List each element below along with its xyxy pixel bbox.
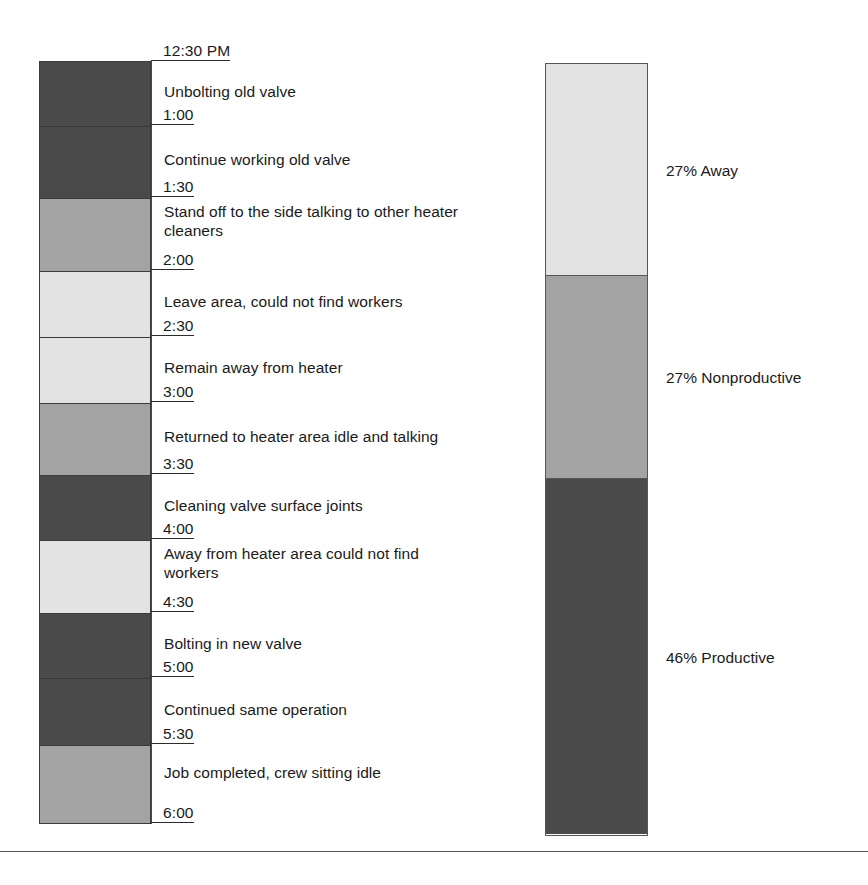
- timeline-row: Stand off to the side talking to other h…: [39, 198, 459, 271]
- timeline-description: Continue working old valve: [164, 150, 459, 169]
- timeline-row: Continue working old valve 1:30: [39, 126, 459, 198]
- timeline-description: Job completed, crew sitting idle: [164, 763, 459, 782]
- timeline-swatch-away: [39, 271, 151, 337]
- timeline-time-end: 5:00: [151, 657, 194, 677]
- timeline-time-end: 1:00: [151, 105, 194, 125]
- timeline-swatch-productive: [39, 61, 151, 126]
- work-sampling-figure: 12:30 PM Unbolting old valve 1:00 Contin…: [0, 0, 868, 885]
- timeline-row-body: Bolting in new valve 5:00: [151, 613, 459, 678]
- timeline-swatch-productive: [39, 126, 151, 198]
- timeline-time-end: 6:00: [151, 803, 194, 823]
- timeline-time-end: 4:30: [151, 592, 194, 612]
- timeline-description: Remain away from heater: [164, 358, 459, 377]
- timeline-time-end: 4:00: [151, 519, 194, 539]
- timeline-description: Unbolting old valve: [164, 82, 459, 101]
- timeline-row-body: Cleaning valve surface joints 4:00: [151, 475, 459, 540]
- timeline-row-body: 12:30 PM Unbolting old valve 1:00: [151, 61, 459, 126]
- timeline-row-body: Remain away from heater 3:00: [151, 337, 459, 403]
- bar-segment-label-nonproductive: 27% Nonproductive: [666, 368, 801, 387]
- timeline-row-body: Continue working old valve 1:30: [151, 126, 459, 198]
- timeline-time-start: 12:30 PM: [151, 41, 230, 61]
- timeline-row: Job completed, crew sitting idle 6:00: [39, 745, 459, 824]
- timeline-row-body: Stand off to the side talking to other h…: [151, 198, 459, 271]
- timeline-row: Returned to heater area idle and talking…: [39, 403, 459, 475]
- timeline-swatch-away: [39, 540, 151, 613]
- bar-segment-productive: 46% Productive: [546, 478, 647, 834]
- timeline-row: Continued same operation 5:30: [39, 678, 459, 745]
- timeline-row-body: Leave area, could not find workers 2:30: [151, 271, 459, 337]
- timeline-time-end: 3:30: [151, 454, 194, 474]
- timeline-time-end: 2:30: [151, 316, 194, 336]
- timeline-description: Continued same operation: [164, 700, 459, 719]
- bar-segment-nonproductive: 27% Nonproductive: [546, 275, 647, 478]
- timeline-description: Stand off to the side talking to other h…: [164, 202, 459, 240]
- timeline-swatch-away: [39, 337, 151, 403]
- timeline-time-end: 2:00: [151, 250, 194, 270]
- timeline-row-body: Returned to heater area idle and talking…: [151, 403, 459, 475]
- summary-stacked-bar: 27% Away 27% Nonproductive 46% Productiv…: [545, 63, 648, 836]
- timeline-swatch-nonproductive: [39, 403, 151, 475]
- timeline-row: Away from heater area could not find wor…: [39, 540, 459, 613]
- timeline-row-body: Continued same operation 5:30: [151, 678, 459, 745]
- timeline-row-body: Away from heater area could not find wor…: [151, 540, 459, 613]
- timeline-description: Bolting in new valve: [164, 634, 459, 653]
- bar-segment-label-away: 27% Away: [666, 160, 738, 179]
- activity-timeline: 12:30 PM Unbolting old valve 1:00 Contin…: [39, 61, 459, 824]
- bottom-divider: [0, 851, 868, 852]
- timeline-swatch-productive: [39, 613, 151, 678]
- timeline-description: Leave area, could not find workers: [164, 292, 459, 311]
- timeline-row: Leave area, could not find workers 2:30: [39, 271, 459, 337]
- timeline-time-end: 5:30: [151, 724, 194, 744]
- timeline-time-end: 3:00: [151, 382, 194, 402]
- timeline-swatch-nonproductive: [39, 198, 151, 271]
- timeline-row: Cleaning valve surface joints 4:00: [39, 475, 459, 540]
- bar-segment-away: 27% Away: [546, 64, 647, 275]
- timeline-description: Cleaning valve surface joints: [164, 496, 459, 515]
- bar-segment-label-productive: 46% Productive: [666, 647, 775, 666]
- timeline-swatch-productive: [39, 678, 151, 745]
- timeline-swatch-productive: [39, 475, 151, 540]
- timeline-row: Remain away from heater 3:00: [39, 337, 459, 403]
- timeline-description: Returned to heater area idle and talking: [164, 427, 459, 446]
- timeline-description: Away from heater area could not find wor…: [164, 544, 459, 582]
- timeline-row: Bolting in new valve 5:00: [39, 613, 459, 678]
- timeline-swatch-nonproductive: [39, 745, 151, 824]
- timeline-row: 12:30 PM Unbolting old valve 1:00: [39, 61, 459, 126]
- timeline-time-end: 1:30: [151, 177, 194, 197]
- timeline-row-body: Job completed, crew sitting idle 6:00: [151, 745, 459, 824]
